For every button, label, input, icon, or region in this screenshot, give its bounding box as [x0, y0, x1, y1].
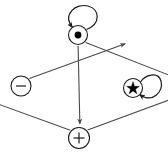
dot-icon	[75, 32, 82, 39]
graph-svg	[0, 0, 168, 156]
edge-bullet-to-star[interactable]	[86, 42, 168, 78]
edge-bullet-to-plus[interactable]	[78, 46, 80, 124]
edge-plus-to-star[interactable]	[88, 97, 168, 130]
edge-minus-to-bullet[interactable]	[29, 44, 125, 79]
node-minus[interactable]	[11, 76, 31, 96]
node-bullet[interactable]	[69, 26, 88, 45]
edge-plus-to-minus[interactable]	[0, 95, 70, 130]
self-loop-bullet[interactable]	[69, 6, 97, 30]
node-star[interactable]	[124, 79, 143, 98]
diagram-canvas	[0, 0, 168, 156]
nodes-layer	[11, 26, 143, 149]
node-plus[interactable]	[69, 128, 90, 149]
self-loops-layer	[69, 6, 162, 98]
